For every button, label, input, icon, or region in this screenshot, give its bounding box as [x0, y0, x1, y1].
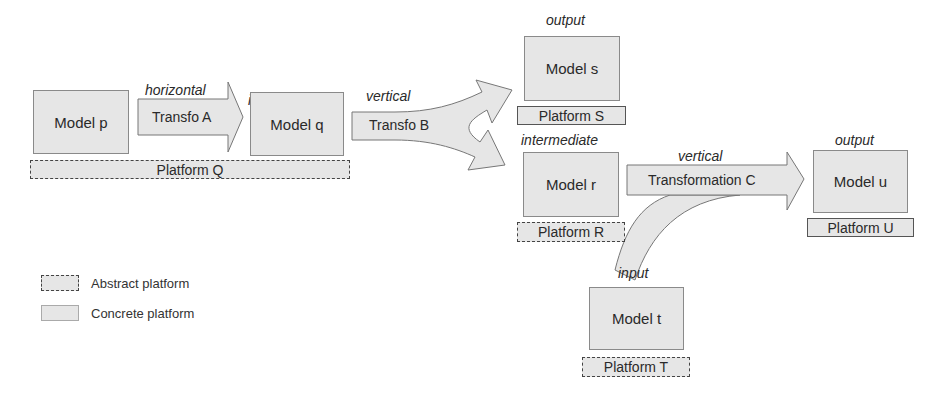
model-s: Model s: [524, 36, 620, 101]
platform-u: Platform U: [807, 218, 914, 237]
platform-t: Platform T: [582, 357, 690, 377]
platform-r: Platform R: [517, 222, 625, 242]
model-q: Model q: [250, 92, 344, 156]
model-p: Model p: [33, 90, 129, 154]
transformation-c-label: Transformation C: [648, 172, 756, 188]
transfo-a-direction: horizontal: [145, 82, 206, 98]
role-label-t: input: [618, 265, 648, 281]
platform-q: Platform Q: [30, 160, 350, 179]
legend-concrete: Concrete platform: [41, 305, 194, 321]
transformation-c-direction: vertical: [678, 148, 722, 164]
role-label-r: intermediate: [521, 132, 598, 148]
model-r: Model r: [523, 152, 619, 217]
model-t: Model t: [589, 287, 684, 350]
model-u: Model u: [813, 150, 908, 213]
role-label-u: output: [835, 132, 874, 148]
concrete-swatch-icon: [41, 305, 79, 321]
transfo-a-label: Transfo A: [152, 109, 211, 125]
platform-s: Platform S: [517, 106, 626, 125]
transfo-b-direction: vertical: [366, 88, 410, 104]
role-label-s: output: [546, 12, 585, 28]
transfo-b-label: Transfo B: [369, 117, 429, 133]
abstract-swatch-icon: [41, 275, 79, 291]
arrows-layer: [0, 0, 944, 401]
legend-abstract: Abstract platform: [41, 275, 189, 291]
